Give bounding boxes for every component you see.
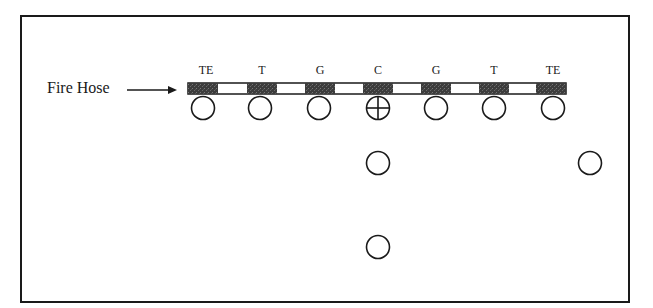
right-arrow-icon: [127, 86, 177, 94]
center-player-crosshair-icon: [367, 97, 390, 120]
player-circle-icon: [425, 97, 448, 120]
hose-block: [421, 83, 451, 94]
player-circle-icon: [249, 97, 272, 120]
back-player-circle-icon: [367, 152, 390, 175]
hose-block: [305, 83, 335, 94]
formation-diagram: [0, 0, 653, 308]
player-circle-icon: [192, 97, 215, 120]
hose-block: [188, 83, 218, 94]
fire-hose-bar: [188, 83, 566, 94]
player-circle-icon: [308, 97, 331, 120]
wide-player-circle-icon: [579, 152, 602, 175]
hose-block: [479, 83, 509, 94]
hose-block: [363, 83, 393, 94]
hose-block: [536, 83, 566, 94]
player-circle-icon: [483, 97, 506, 120]
deep-back-player-circle-icon: [367, 236, 390, 259]
hose-block: [247, 83, 277, 94]
player-circle-icon: [542, 97, 565, 120]
